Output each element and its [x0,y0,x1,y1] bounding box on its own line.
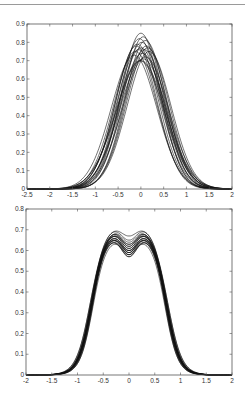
density-curve [27,50,232,189]
density-curve [27,59,232,189]
density-curve [26,243,232,375]
y-tick-label: 0.3 [15,309,24,316]
x-tick-label: -1 [75,377,81,384]
y-tick-label: 0.4 [15,288,24,295]
y-tick-label: 0.6 [16,75,25,82]
density-curve [27,37,232,189]
density-curve [26,241,232,375]
x-tick-label: -0.5 [98,377,110,384]
figure: -2.5-2-1.5-1-0.500.511.5200.10.20.30.40.… [0,0,245,401]
x-tick-label: 0 [139,191,143,198]
x-tick-label: -0.5 [113,191,125,198]
y-tick-label: 0.3 [16,130,25,137]
y-tick-label: 0.8 [16,39,25,46]
density-curve [27,55,232,189]
y-tick-label: 0 [21,185,25,192]
density-curve [26,240,232,375]
y-tick-label: 0.6 [15,247,24,254]
y-tick-label: 0.1 [15,350,24,357]
x-tick-label: 1.5 [205,191,214,198]
top-density-plot: -2.5-2-1.5-1-0.500.511.5200.10.20.30.40.… [16,20,234,198]
curve-group [26,231,232,375]
y-tick-label: 0.1 [16,167,25,174]
x-tick-label: 1 [179,377,183,384]
density-curve [27,48,232,189]
x-tick-label: 0.5 [159,191,168,198]
curve-group [27,33,232,189]
x-tick-label: -1 [92,191,98,198]
axes-frame [27,24,232,189]
density-curve [26,239,232,375]
x-tick-label: 1.5 [202,377,211,384]
y-tick-label: 0.2 [15,330,24,337]
x-tick-label: 1 [185,191,189,198]
y-tick-label: 0.5 [16,94,25,101]
x-tick-label: 2 [230,377,234,384]
density-curve [27,48,232,189]
y-tick-label: 0.2 [16,149,25,156]
density-curve [26,237,232,375]
density-curve [26,234,232,375]
density-curve [26,243,232,375]
density-curve [26,232,232,375]
x-tick-label: 2 [230,191,234,198]
density-curve [26,241,232,375]
y-tick-label: 0.5 [15,267,24,274]
density-curve [27,42,232,189]
x-tick-label: -1.5 [67,191,79,198]
density-curve [27,41,232,189]
y-tick-label: 0.9 [16,20,25,27]
density-curve [26,243,232,375]
y-tick-label: 0.7 [16,57,25,64]
density-curve [26,234,232,375]
y-tick-label: 0.4 [16,112,25,119]
y-tick-label: 0.7 [15,226,24,233]
density-curve [27,50,232,189]
y-tick-label: 0 [20,371,24,378]
x-tick-label: 0 [127,377,131,384]
bottom-density-plot: -2-1.5-1-0.500.511.5200.10.20.30.40.50.6… [15,205,234,384]
density-curve [26,244,232,375]
density-curve [26,241,232,375]
x-tick-label: -1.5 [46,377,58,384]
x-tick-label: -2 [23,377,29,384]
y-tick-label: 0.8 [15,205,24,212]
density-curve [26,239,232,375]
x-tick-label: 0.5 [150,377,159,384]
density-curve [26,234,232,375]
x-tick-label: -2 [47,191,53,198]
density-curve [26,239,232,375]
density-curve [26,237,232,375]
density-curve [27,57,232,189]
axes-frame [26,209,232,375]
